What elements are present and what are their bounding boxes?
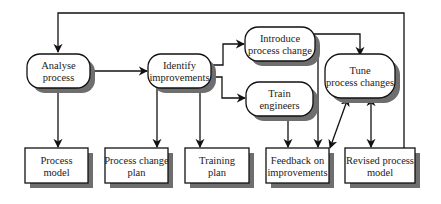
node-label: process <box>43 72 75 83</box>
node-box <box>185 148 249 183</box>
edge-identify-train <box>211 77 245 98</box>
deliverable-process-change-plan: Process changeplan <box>104 148 173 188</box>
node-box <box>105 148 168 183</box>
node-label: improvements <box>267 167 327 178</box>
node-label: Introduce <box>260 33 301 44</box>
node-label: engineers <box>259 100 299 111</box>
node-box <box>325 54 395 98</box>
node-box <box>266 148 329 183</box>
node-label: Feedback on <box>271 155 325 166</box>
edge-identify-introduce <box>211 44 244 65</box>
node-label: Process <box>40 155 72 166</box>
edge-introduce-tune <box>313 34 360 55</box>
node-label: Train <box>268 88 291 99</box>
activitie-train: Trainengineers <box>246 82 318 121</box>
activitie-identify: Identifyimprovements <box>148 54 216 93</box>
node-label: process change <box>248 45 312 56</box>
node-label: process changes <box>326 77 394 88</box>
deliverable-revised-model: Revised processmodel <box>345 148 420 188</box>
deliverable-process-model: Processmodel <box>25 148 93 188</box>
node-box <box>345 148 415 183</box>
node-label: Training <box>199 155 236 166</box>
node-label: Tune <box>349 65 371 76</box>
deliverable-feedback: Feedback onimprovements <box>266 148 334 188</box>
node-label: Revised process <box>346 155 414 166</box>
node-box <box>25 148 88 183</box>
node-label: model <box>367 167 393 178</box>
deliverable-training-plan: Trainingplan <box>185 148 254 188</box>
node-label: Identify <box>163 60 197 71</box>
node-label: Process change <box>104 155 169 166</box>
activitie-introduce: Introduceprocess change <box>245 27 320 66</box>
node-label: Analyse <box>41 60 76 71</box>
edge-feedback-tune <box>330 98 348 148</box>
node-label: plan <box>127 167 146 178</box>
node-label: plan <box>208 167 227 178</box>
node-label: model <box>43 167 69 178</box>
process-improvement-diagram: AnalyseprocessIdentifyimprovementsIntrod… <box>0 0 441 204</box>
activitie-analyse: Analyseprocess <box>27 54 95 93</box>
node-label: improvements <box>149 72 209 83</box>
activitie-tune: Tuneprocess changes <box>325 54 400 103</box>
